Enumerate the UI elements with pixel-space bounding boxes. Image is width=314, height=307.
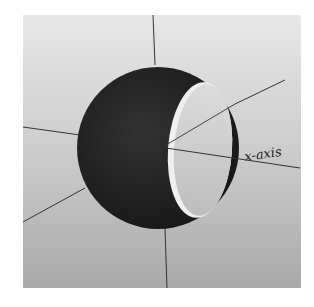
diag-axis-right — [235, 80, 285, 104]
sphere-diagram: x-axis — [0, 0, 314, 307]
z-axis-bottom — [165, 228, 167, 288]
x-axis-label: x-axis — [243, 144, 282, 164]
y-axis-left — [23, 127, 80, 135]
z-axis-top — [153, 15, 155, 65]
diag-axis-left — [23, 188, 85, 222]
